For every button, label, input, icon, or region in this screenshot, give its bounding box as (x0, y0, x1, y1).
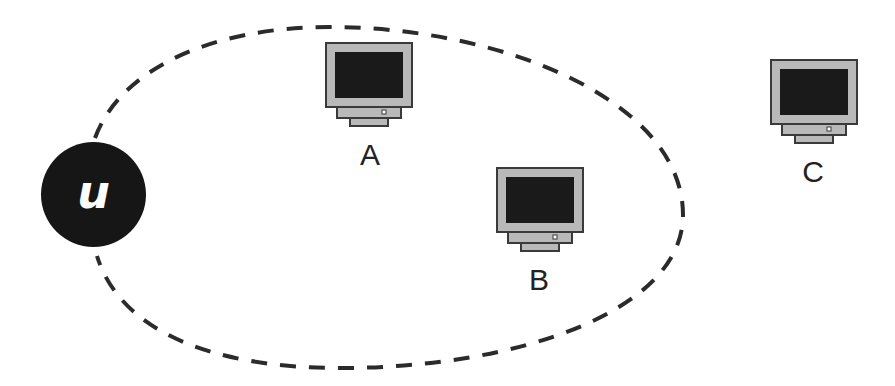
node-label-b: B (509, 265, 569, 295)
user-node-u[interactable]: u (41, 142, 146, 247)
computer-monitor-icon-c[interactable] (770, 59, 860, 151)
computer-monitor-icon-a[interactable] (325, 42, 415, 134)
user-node-label: u (41, 142, 146, 247)
computer-monitor-icon-b[interactable] (496, 167, 586, 259)
node-label-c: C (783, 157, 843, 187)
node-label-a: A (340, 140, 400, 170)
